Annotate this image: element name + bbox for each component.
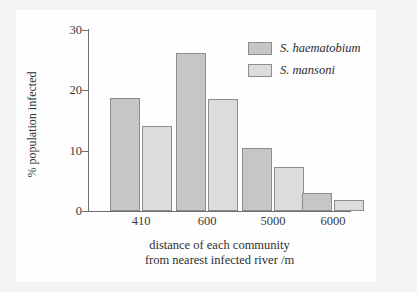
y-tick-mark-0 <box>82 211 88 212</box>
x-tick-label-410: 410 <box>113 214 169 229</box>
y-tick-label-20: 20 <box>42 84 82 96</box>
y-tick-label-30: 30 <box>42 24 82 36</box>
x-axis-title-line2: from nearest infected river /m <box>88 253 351 268</box>
y-axis-ticks: 30 20 10 0 <box>36 0 82 292</box>
x-tick-label-5000: 5000 <box>245 214 301 229</box>
x-axis-title: distance of each community from nearest … <box>88 238 351 268</box>
bar-5000-haematobium <box>242 148 272 211</box>
bar-6000-mansoni <box>334 200 364 212</box>
legend-swatch-haematobium-icon <box>248 42 272 55</box>
x-axis-line <box>88 211 351 212</box>
bar-410-haematobium <box>110 98 140 211</box>
bar-5000-mansoni <box>274 167 304 211</box>
bar-600-mansoni <box>208 99 238 211</box>
bar-600-haematobium <box>176 53 206 211</box>
y-tick-label-10: 10 <box>42 145 82 157</box>
legend-label-haematobium: S. haematobium <box>280 42 361 55</box>
figure-container: 30 20 10 0 % population infected 410 600… <box>0 0 417 292</box>
x-tick-label-6000: 6000 <box>305 214 361 229</box>
bar-6000-haematobium <box>302 193 332 211</box>
legend-item-haematobium: S. haematobium <box>248 38 373 58</box>
y-tick-label-0: 0 <box>42 205 82 217</box>
x-tick-label-600: 600 <box>179 214 235 229</box>
legend-swatch-mansoni-icon <box>248 64 272 77</box>
legend-item-mansoni: S. mansoni <box>248 60 373 80</box>
bar-410-mansoni <box>142 126 172 211</box>
y-axis-title: % population infected <box>26 65 39 185</box>
x-axis-labels: 410 600 5000 6000 <box>88 214 351 232</box>
legend-label-mansoni: S. mansoni <box>280 64 335 77</box>
x-axis-title-line1: distance of each community <box>88 238 351 253</box>
legend: S. haematobium S. mansoni <box>248 38 373 82</box>
